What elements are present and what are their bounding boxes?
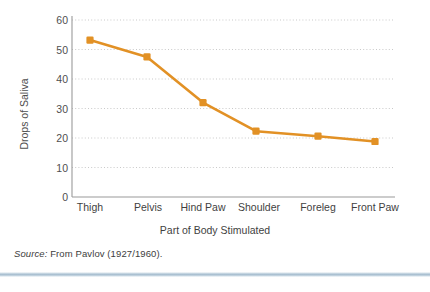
x-tick-label-pelvis: Pelvis bbox=[134, 201, 162, 214]
axis-spines bbox=[72, 16, 395, 197]
x-tick-label-shoulder: Shoulder bbox=[238, 201, 280, 214]
source-note-prefix: Source: bbox=[14, 248, 47, 259]
x-tick-label-thigh: Thigh bbox=[77, 201, 103, 214]
data-point-front-paw bbox=[371, 138, 378, 145]
data-point-pelvis bbox=[143, 53, 150, 60]
plot-area: 60 50 40 30 20 10 0 Drops of Saliva bbox=[0, 0, 430, 250]
x-tick-label-foreleg: Foreleg bbox=[300, 201, 336, 214]
data-line-drops-of-saliva bbox=[90, 40, 375, 141]
data-point-thigh bbox=[86, 37, 93, 44]
data-point-shoulder bbox=[252, 128, 259, 135]
x-tick-label-hind-paw: Hind Paw bbox=[181, 201, 226, 214]
x-axis-title: Part of Body Stimulated bbox=[0, 224, 430, 236]
bottom-divider-rule bbox=[0, 272, 430, 277]
source-note-body: From Pavlov (1927/1960). bbox=[47, 248, 162, 259]
x-axis-tick-labels: Thigh Pelvis Hind Paw Shoulder Foreleg F… bbox=[0, 201, 430, 221]
source-note: Source: From Pavlov (1927/1960). bbox=[14, 248, 162, 259]
gridlines bbox=[72, 20, 395, 168]
figure-container: 60 50 40 30 20 10 0 Drops of Saliva bbox=[0, 0, 430, 292]
x-tick-label-front-paw: Front Paw bbox=[351, 201, 399, 214]
data-point-hind-paw bbox=[199, 99, 206, 106]
data-point-foreleg bbox=[314, 133, 321, 140]
